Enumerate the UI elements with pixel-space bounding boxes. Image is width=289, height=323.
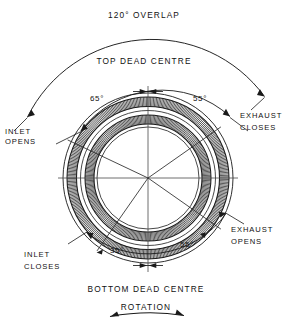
exhaust-opens-label-line2: OPENS bbox=[231, 237, 262, 246]
lower-arc-arrow-left bbox=[86, 232, 94, 239]
angle-exhaust-close-label: 55° bbox=[193, 94, 207, 103]
valve-timing-diagram: 120° OVERLAP TOP DEAD CENTRE 65° 55° INL… bbox=[0, 0, 289, 323]
diagram-canvas: 120° OVERLAP TOP DEAD CENTRE 65° 55° INL… bbox=[0, 0, 289, 323]
exhaust-closes-label-line1: EXHAUST bbox=[240, 111, 282, 120]
inlet-opens-label-line1: INLET bbox=[5, 127, 31, 136]
top-dead-centre-label: TOP DEAD CENTRE bbox=[96, 56, 191, 66]
exhaust-closes-label-line2: CLOSES bbox=[240, 123, 276, 132]
upper-arc-arrow-right bbox=[223, 109, 230, 117]
inlet-closes-label-line2: CLOSES bbox=[24, 262, 60, 271]
angle-inlet-open-label: 65° bbox=[90, 94, 104, 103]
rotation-label: ROTATION bbox=[121, 302, 171, 312]
overlap-arc-group bbox=[28, 39, 265, 117]
overlap-title: 120° OVERLAP bbox=[108, 10, 180, 20]
bottom-dead-centre-label: BOTTOM DEAD CENTRE bbox=[88, 284, 205, 294]
leader-exhaust-opens bbox=[227, 214, 245, 225]
exhaust-opens-label-line1: EXHAUST bbox=[231, 225, 273, 234]
overlap-arc-arrow-left bbox=[28, 109, 35, 117]
angle-exhaust-open-label: 55° bbox=[180, 240, 194, 249]
inlet-opens-label-line2: OPENS bbox=[5, 137, 36, 146]
leader-exhaust-closes-top bbox=[251, 98, 265, 111]
overlap-arc-arrow-right bbox=[257, 89, 265, 96]
angle-inlet-close-label: 35° bbox=[110, 246, 124, 255]
overlap-arc bbox=[28, 39, 265, 117]
leader-inlet-closes bbox=[68, 233, 86, 245]
inlet-closes-label-line1: INLET bbox=[24, 250, 50, 259]
